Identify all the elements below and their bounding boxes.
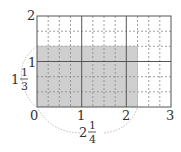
height-whole: 1 xyxy=(11,72,19,87)
width-label: 2 1 4 xyxy=(79,119,96,146)
x-tick-1: 1 xyxy=(77,108,85,123)
y-tick-2: 2 xyxy=(27,8,35,23)
x-tick-0: 0 xyxy=(30,108,38,123)
x-tick-3: 3 xyxy=(166,108,174,123)
height-numerator: 1 xyxy=(21,66,28,79)
area-model-diagram: 0 1 2 3 2 1 1 1 3 2 1 4 xyxy=(0,0,181,152)
width-denominator: 4 xyxy=(89,133,96,146)
height-label: 1 1 3 xyxy=(11,66,28,93)
width-numerator: 1 xyxy=(89,119,96,132)
x-tick-2: 2 xyxy=(122,108,130,123)
width-whole: 2 xyxy=(79,125,87,140)
height-denominator: 3 xyxy=(21,80,28,93)
y-tick-1: 1 xyxy=(28,55,36,70)
